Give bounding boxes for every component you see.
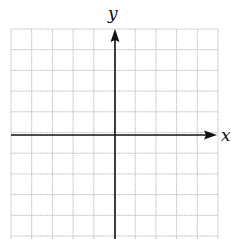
y-axis (111, 29, 120, 239)
coordinate-plane: x y (0, 0, 231, 239)
y-axis-label: y (107, 3, 118, 23)
x-axis-label: x (221, 125, 231, 145)
